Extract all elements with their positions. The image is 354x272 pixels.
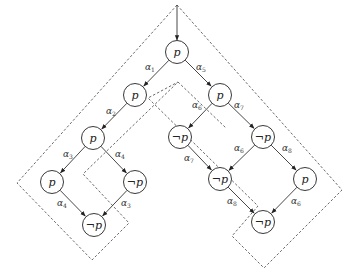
node-label: p <box>216 89 223 102</box>
edge-label: α2 <box>106 106 116 117</box>
edge-label: α8 <box>282 143 292 154</box>
nodes: pppp¬p¬pp¬p¬p¬pp¬p <box>41 41 317 237</box>
node-label: p <box>48 176 55 189</box>
edge-label: α3 <box>121 198 131 209</box>
node-label: ¬p <box>255 216 271 229</box>
edge-label: α6 <box>291 196 301 207</box>
edge-label: α6 <box>192 100 202 111</box>
state-node-n7: p <box>209 84 232 107</box>
edge-label: α3 <box>63 149 73 160</box>
node-label: p <box>131 89 138 102</box>
state-node-n5: ¬p <box>124 171 147 194</box>
node-label: ¬p <box>86 219 102 232</box>
edge-label: α8 <box>227 196 237 207</box>
node-label: ¬p <box>172 131 188 144</box>
state-node-n9: ¬p <box>252 126 275 149</box>
node-label: p <box>89 132 96 145</box>
edge-label: α4 <box>57 198 67 209</box>
edge-label: α7 <box>234 100 244 111</box>
edge-label: α4 <box>115 149 125 160</box>
state-node-n1: p <box>166 41 189 64</box>
state-node-n2: p <box>124 84 147 107</box>
state-node-n11: p <box>294 168 317 191</box>
edge-label: α7 <box>184 153 194 164</box>
edge-label: α1 <box>145 62 155 73</box>
state-node-n3: p <box>82 127 105 150</box>
state-node-n6: ¬p <box>83 214 106 237</box>
state-node-n10: ¬p <box>209 168 232 191</box>
edge-label: α5 <box>196 62 206 73</box>
edge-label: α6 <box>234 143 244 154</box>
node-label: ¬p <box>127 176 143 189</box>
state-transition-diagram: pppp¬p¬pp¬p¬p¬pp¬p α1α5α2α3α4α4α3α6α7α7α… <box>0 0 354 272</box>
node-label: p <box>301 173 308 186</box>
state-node-n12: ¬p <box>252 211 275 234</box>
node-label: ¬p <box>255 131 271 144</box>
outer-region-outline <box>17 5 226 260</box>
node-label: p <box>173 46 180 59</box>
state-node-n8: ¬p <box>169 126 192 149</box>
node-label: ¬p <box>212 173 228 186</box>
state-node-n4: p <box>41 171 64 194</box>
